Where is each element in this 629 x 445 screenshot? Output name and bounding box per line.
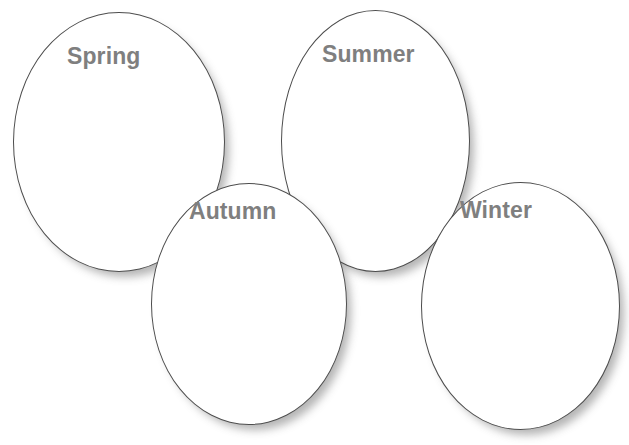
- shape-label-summer: Summer: [322, 43, 415, 66]
- diagram-canvas: Spring Summer Autumn Winter: [0, 0, 629, 445]
- shape-label-spring: Spring: [67, 45, 140, 68]
- shape-autumn[interactable]: Autumn: [151, 183, 347, 425]
- shape-winter[interactable]: Winter: [421, 182, 620, 430]
- shape-label-winter: Winter: [460, 199, 532, 222]
- shape-label-autumn: Autumn: [189, 200, 276, 223]
